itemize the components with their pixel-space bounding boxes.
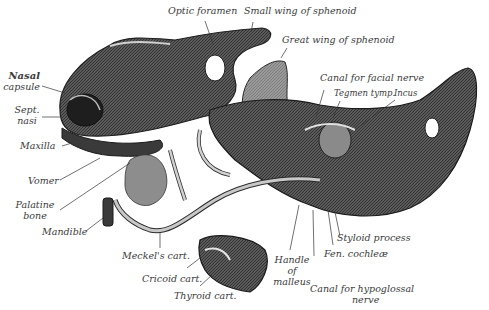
- label-optic-foramen: Optic foramen: [168, 5, 237, 16]
- label-nerve: nerve: [352, 294, 379, 305]
- larynx-shape: [199, 236, 267, 292]
- label-meckels-cartilage: Meckel's cart.: [122, 250, 190, 261]
- label-tegmen-tympani: Tegmen tymp.: [334, 88, 395, 99]
- label-small-wing-sphenoid: Small wing of sphenoid: [244, 5, 357, 16]
- anatomy-figure: Optic foramen Small wing of sphenoid Gre…: [0, 0, 489, 310]
- label-capsule: capsule: [0, 81, 40, 92]
- label-great-wing-sphenoid: Great wing of sphenoid: [282, 34, 395, 45]
- label-of: of: [270, 265, 314, 276]
- label-thyroid-cartilage: Thyroid cart.: [174, 290, 237, 301]
- label-nasi: nasi: [12, 115, 42, 126]
- label-vomer: Vomer: [28, 175, 59, 186]
- label-incus: Incus: [394, 88, 417, 99]
- palatine-shape: [125, 155, 167, 206]
- label-canal-facial-nerve: Canal for facial nerve: [320, 72, 424, 83]
- label-malleus: malleus: [270, 276, 314, 287]
- label-sept: Sept.: [12, 104, 42, 115]
- label-cricoid-cartilage: Cricoid cart.: [142, 273, 202, 284]
- label-mandible: Mandible: [42, 226, 87, 237]
- label-nasal: Nasal: [0, 70, 40, 81]
- label-maxilla: Maxilla: [20, 140, 56, 151]
- label-palatine: Palatine: [12, 199, 58, 210]
- illustration: [0, 0, 489, 310]
- label-fenestra-cochleae: Fen. cochleæ: [324, 248, 388, 259]
- label-canal-hypoglossal: Canal for hypoglossal: [310, 283, 414, 294]
- label-bone: bone: [12, 210, 58, 221]
- label-handle: Handle: [270, 254, 314, 265]
- label-styloid-process: Styloid process: [337, 232, 411, 243]
- mandible-shape: [103, 198, 113, 226]
